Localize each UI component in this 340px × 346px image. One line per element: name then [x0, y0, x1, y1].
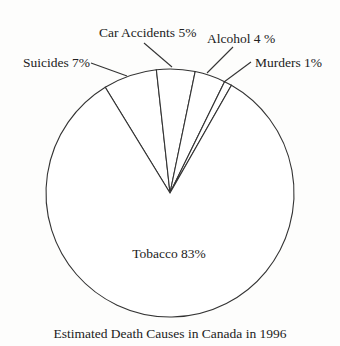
slice-label: Tobacco 83% — [132, 246, 206, 261]
pie-slices — [46, 69, 294, 317]
slice-label: Suicides 7% — [23, 55, 90, 70]
leader-line — [91, 63, 127, 76]
leader-line — [224, 62, 251, 82]
pie-chart: Suicides 7%Car Accidents 5%Alcohol 4 %Mu… — [0, 0, 340, 346]
slice-label: Alcohol 4 % — [207, 31, 275, 46]
chart-title: Estimated Death Causes in Canada in 1996 — [53, 326, 286, 341]
leader-line — [144, 43, 172, 67]
slice-label: Car Accidents 5% — [99, 25, 196, 40]
leader-line — [207, 47, 233, 73]
slice-label: Murders 1% — [255, 55, 322, 70]
